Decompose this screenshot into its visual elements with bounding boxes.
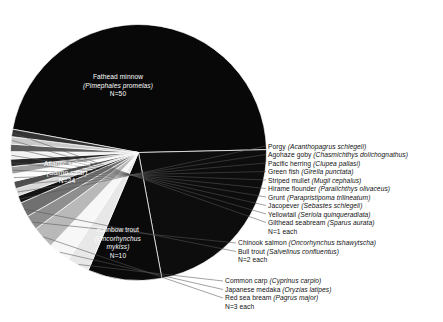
pie-label-common: Atlantic salmon [19,160,115,169]
callout-scientific-name: (Acanthopagrus schlegeli) [288,143,367,150]
callout-common-name: Yellowtail [268,211,298,218]
callout-common-name: Gilthead seabream [268,219,327,226]
callout-scientific-name: (Girella punctata) [301,168,353,175]
pie-label-scientific-line1: (Oncorhynchus [82,235,154,244]
callout-common-name: Japanese medaka [225,286,282,293]
callout-group-n3: Common carp (Cyprinus carpio)Japanese me… [225,277,331,311]
pie-label-count: N=24 [19,177,115,186]
callout-row: Bull trout (Salvelinus confluentus) [238,248,376,257]
callout-common-name: Green fish [268,168,301,175]
callout-scientific-name: (Salvelinus confluentus) [267,248,339,255]
pie-label-common: Rainbow trout [82,226,154,235]
pie-label-scientific: (Pimephales promelas) [63,82,173,91]
pie-label-count: N=10 [82,252,154,261]
callout-row: Agohaze goby (Chasmichthys dolichognathu… [268,151,408,160]
pie-label-scientific: (Salmo salar) [19,169,115,178]
callout-scientific-name: (Oncorhynchus tshawytscha) [289,239,377,246]
callout-common-name: Striped mullet [268,177,312,184]
callout-row: Hirame flounder (Paralichthys olivaceus) [268,185,408,194]
callout-row: Grunt (Parapristipoma trilineatum) [268,194,408,203]
callout-scientific-name: (Seriola quinqueradiata) [298,211,371,218]
callout-common-name: Pacific herring [268,160,313,167]
callout-row: Pacific herring (Clupea pallasi) [268,160,408,169]
callout-scientific-name: (Chasmichthys dolichognathus) [313,151,408,158]
callout-common-name: Porgy [268,143,288,150]
pie-label-scientific-line2: mykiss) [82,243,154,252]
callout-common-name: Hirame flounder [268,185,318,192]
callout-scientific-name: (Mugil cephalus) [312,177,362,184]
callout-scientific-name: (Sparus aurata) [327,219,374,226]
pie-label-fathead-minnow: Fathead minnow (Pimephales promelas) N=5… [63,73,173,99]
callout-common-name: Red sea bream [225,294,273,301]
callout-scientific-name: (Parapristipoma trilineatum) [287,194,371,201]
callout-row: Gilthead seabream (Sparus aurata) [268,219,408,228]
callout-scientific-name: (Sebastes schlegeli) [301,202,362,209]
callout-common-name: Grunt [268,194,287,201]
callout-group-n2: Chinook salmon (Oncorhynchus tshawytscha… [238,239,376,265]
callout-row: Japanese medaka (Oryzias latipes) [225,286,331,295]
callout-row: Common carp (Cyprinus carpio) [225,277,331,286]
pie-chart-figure: Fathead minnow (Pimephales promelas) N=5… [0,0,443,322]
callout-common-name: Common carp [225,277,269,284]
callout-common-name: Jacopever [268,202,301,209]
pie-label-common: Fathead minnow [63,73,173,82]
callout-common-name: Chinook salmon [238,239,289,246]
callout-group-n1: Porgy (Acanthopagrus schlegeli)Agohaze g… [268,143,408,237]
callout-common-name: Bull trout [238,248,267,255]
callout-row: Jacopever (Sebastes schlegeli) [268,202,408,211]
callout-scientific-name: (Paralichthys olivaceus) [318,185,390,192]
pie-label-atlantic-salmon: Atlantic salmon (Salmo salar) N=24 [19,160,115,186]
pie-label-count: N=50 [63,90,173,99]
callout-common-name: Agohaze goby [268,151,313,158]
callout-count: N=3 each [225,303,331,312]
callout-scientific-name: (Pagrus major) [273,294,318,301]
callout-count: N=2 each [238,256,376,265]
callout-row: Yellowtail (Seriola quinqueradiata) [268,211,408,220]
callout-row: Green fish (Girella punctata) [268,168,408,177]
callout-row: Striped mullet (Mugil cephalus) [268,177,408,186]
callout-count: N=1 each [268,228,408,237]
callout-row: Chinook salmon (Oncorhynchus tshawytscha… [238,239,376,248]
callout-row: Red sea bream (Pagrus major) [225,294,331,303]
callout-scientific-name: (Cyprinus carpio) [269,277,321,284]
pie-label-rainbow-trout: Rainbow trout (Oncorhynchus mykiss) N=10 [82,226,154,260]
callout-row: Porgy (Acanthopagrus schlegeli) [268,143,408,152]
callout-scientific-name: (Clupea pallasi) [313,160,360,167]
callout-scientific-name: (Oryzias latipes) [282,286,331,293]
